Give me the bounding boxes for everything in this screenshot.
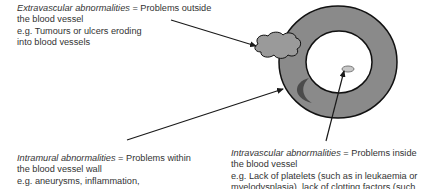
tumour-cloud <box>255 32 301 58</box>
extravascular-definition: = Problems outside <box>130 3 211 13</box>
intramural-definition: = Problems within <box>116 153 191 163</box>
intravascular-definition: = Problems inside <box>341 148 417 158</box>
intravascular-label: Intravascular abnormalities = Problems i… <box>231 148 417 189</box>
intravascular-example-1: e.g. Lack of platelets (such as in leuka… <box>231 171 417 182</box>
intravascular-example-2: myelodysplasia), lack of clotting factor… <box>231 182 417 189</box>
intramural-heading: Intramural abnormalities = Problems with… <box>17 153 191 164</box>
intramural-line-2: the blood vessel wall <box>17 164 191 175</box>
intravascular-heading: Intravascular abnormalities = Problems i… <box>231 148 417 159</box>
intramural-term: Intramural abnormalities <box>17 153 116 163</box>
extravascular-label: Extravascular abnormalities = Problems o… <box>17 3 211 48</box>
intramural-label: Intramural abnormalities = Problems with… <box>17 153 191 187</box>
intravascular-line-2: the blood vessel <box>231 159 417 170</box>
extravascular-term: Extravascular abnormalities <box>17 3 130 13</box>
intramural-example: e.g. aneurysms, inflammation, <box>17 176 191 187</box>
extravascular-example-1: e.g. Tumours or ulcers eroding <box>17 26 211 37</box>
extravascular-heading: Extravascular abnormalities = Problems o… <box>17 3 211 14</box>
intravascular-term: Intravascular abnormalities <box>231 148 341 158</box>
extravascular-example-2: into blood vessels <box>17 37 211 48</box>
vessel-lumen <box>306 31 372 93</box>
arrow-intramural <box>127 89 283 140</box>
extravascular-line-2: the blood vessel <box>17 14 211 25</box>
